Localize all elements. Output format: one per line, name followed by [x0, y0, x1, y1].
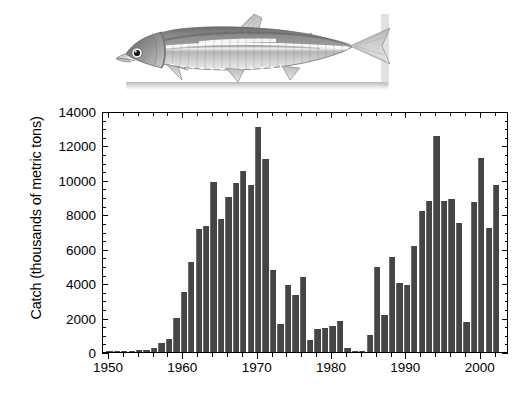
bar: [493, 185, 499, 352]
y-minor-tick: [102, 233, 106, 234]
y-tick-label: 12000: [24, 139, 96, 154]
x-minor-tick-top: [123, 112, 124, 116]
y-minor-tick: [102, 138, 106, 139]
y-minor-tick-right: [505, 129, 509, 130]
y-minor-tick-right: [505, 276, 509, 277]
y-major-tick-right: [502, 181, 508, 182]
bar: [136, 350, 142, 352]
x-minor-tick: [495, 353, 496, 357]
x-minor-tick-top: [316, 112, 317, 116]
x-minor-tick: [227, 353, 228, 357]
anchoveta-fish-illustration: [104, 2, 404, 94]
x-major-tick-top: [108, 112, 109, 118]
y-tick-label: 4000: [24, 277, 96, 292]
x-minor-tick-top: [242, 112, 243, 116]
x-minor-tick-top: [435, 112, 436, 116]
y-minor-tick-right: [505, 233, 509, 234]
y-minor-tick-right: [505, 301, 509, 302]
bar: [240, 171, 246, 352]
bar: [352, 351, 358, 352]
x-major-tick-top: [331, 112, 332, 118]
bar: [448, 199, 454, 352]
plot-area: [102, 112, 508, 353]
x-minor-tick-top: [286, 112, 287, 116]
y-minor-tick-right: [505, 344, 509, 345]
x-minor-tick: [361, 353, 362, 357]
y-minor-tick-right: [505, 172, 509, 173]
x-major-tick: [405, 353, 406, 359]
bar: [285, 285, 291, 352]
y-major-tick-right: [502, 146, 508, 147]
y-minor-tick-right: [505, 258, 509, 259]
x-minor-tick: [376, 353, 377, 357]
bar-series: [103, 113, 507, 352]
y-major-tick: [102, 250, 108, 251]
y-minor-tick-right: [505, 224, 509, 225]
x-minor-tick-top: [301, 112, 302, 116]
x-minor-tick-top: [212, 112, 213, 116]
y-major-tick-right: [502, 112, 508, 113]
bar: [359, 351, 365, 352]
y-major-tick: [102, 319, 108, 320]
y-tick-label: 6000: [24, 242, 96, 257]
y-minor-tick-right: [505, 138, 509, 139]
y-minor-tick-right: [505, 327, 509, 328]
bar: [426, 201, 432, 352]
x-minor-tick: [272, 353, 273, 357]
bar: [158, 343, 164, 352]
y-tick-label: 0: [24, 346, 96, 361]
x-minor-tick-top: [167, 112, 168, 116]
x-minor-tick-top: [197, 112, 198, 116]
bar: [151, 348, 157, 352]
y-major-tick-right: [502, 215, 508, 216]
bar: [314, 329, 320, 352]
bar: [404, 285, 410, 352]
x-minor-tick-top: [153, 112, 154, 116]
bar: [344, 348, 350, 352]
x-minor-tick-top: [465, 112, 466, 116]
bar: [300, 277, 306, 352]
y-major-tick-right: [502, 353, 508, 354]
x-minor-tick-top: [450, 112, 451, 116]
x-minor-tick: [212, 353, 213, 357]
y-minor-tick: [102, 164, 106, 165]
bar: [478, 158, 484, 352]
y-minor-tick: [102, 224, 106, 225]
x-minor-tick: [197, 353, 198, 357]
x-major-tick: [182, 353, 183, 359]
y-minor-tick: [102, 344, 106, 345]
x-major-tick: [331, 353, 332, 359]
bar: [248, 185, 254, 352]
y-minor-tick-right: [505, 155, 509, 156]
bar: [292, 295, 298, 352]
x-major-tick-top: [182, 112, 183, 118]
bar: [270, 270, 276, 352]
y-minor-tick-right: [505, 189, 509, 190]
y-tick-label: 8000: [24, 208, 96, 223]
x-tick-label: 1950: [73, 360, 143, 375]
bar: [121, 351, 127, 352]
y-minor-tick: [102, 172, 106, 173]
x-major-tick: [108, 353, 109, 359]
y-minor-tick: [102, 258, 106, 259]
bar: [396, 283, 402, 352]
y-minor-tick: [102, 189, 106, 190]
x-minor-tick: [346, 353, 347, 357]
bar: [114, 351, 120, 352]
x-minor-tick-top: [376, 112, 377, 116]
y-major-tick-right: [502, 250, 508, 251]
bar: [411, 246, 417, 352]
y-minor-tick: [102, 336, 106, 337]
x-minor-tick-top: [420, 112, 421, 116]
y-minor-tick: [102, 267, 106, 268]
bar: [367, 335, 373, 352]
x-major-tick: [257, 353, 258, 359]
x-minor-tick-top: [227, 112, 228, 116]
x-minor-tick: [242, 353, 243, 357]
bar: [196, 229, 202, 352]
x-tick-label: 1970: [222, 360, 292, 375]
y-minor-tick-right: [505, 164, 509, 165]
x-tick-label: 1960: [147, 360, 217, 375]
y-minor-tick: [102, 121, 106, 122]
x-minor-tick: [153, 353, 154, 357]
